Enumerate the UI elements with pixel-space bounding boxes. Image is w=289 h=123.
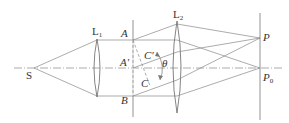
label-l2: L2: [173, 8, 184, 22]
ray-s-top: [34, 40, 97, 68]
label-c: C: [141, 77, 149, 89]
lens-l2: [173, 21, 181, 113]
label-theta: θ: [162, 57, 168, 69]
label-l1: L1: [92, 25, 103, 39]
ray-diff-aprime: [133, 52, 177, 68]
theta-arrow-bottom: [158, 75, 163, 80]
ray-l2-p0-bottom: [177, 68, 260, 96]
label-p: P: [262, 31, 270, 43]
ray-l2-p2: [177, 38, 260, 52]
ray-s-bottom: [34, 68, 97, 96]
label-s: S: [26, 69, 32, 81]
label-p0: P0: [262, 71, 274, 85]
ray-diff-a: [133, 24, 177, 40]
label-b: B: [121, 94, 128, 106]
label-c-prime: C′: [144, 49, 154, 61]
diagram-svg: S L1 A A′ B C′ C θ L2 P P0: [0, 0, 289, 123]
ray-diff-b: [133, 80, 177, 96]
optics-diagram: S L1 A A′ B C′ C θ L2 P P0: [0, 0, 289, 123]
label-a: A: [120, 27, 128, 39]
label-a-prime: A′: [119, 56, 130, 68]
ray-l2-p1: [177, 24, 260, 38]
